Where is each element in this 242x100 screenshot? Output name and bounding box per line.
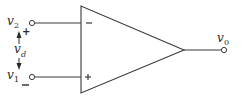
vd-subscript: d: [21, 50, 26, 59]
op-amp-triangle: [81, 6, 184, 93]
op-amp-diagram: v 2 + v 1 v d v 0: [0, 0, 242, 100]
v0-label: v: [217, 31, 224, 45]
inverting-input-terminal[interactable]: [29, 20, 34, 25]
v1-label: v: [7, 68, 14, 82]
v0-subscript: 0: [224, 38, 229, 47]
v2-polarity-plus: +: [22, 26, 30, 37]
vd-label: v: [14, 42, 21, 56]
v2-label: v: [7, 14, 14, 28]
output-terminal[interactable]: [221, 47, 226, 52]
arrow-up-icon: [17, 31, 22, 38]
v2-subscript: 2: [14, 21, 19, 30]
v1-subscript: 1: [14, 75, 19, 84]
arrow-down-icon: [17, 63, 22, 70]
non-inverting-input-terminal[interactable]: [29, 74, 34, 79]
